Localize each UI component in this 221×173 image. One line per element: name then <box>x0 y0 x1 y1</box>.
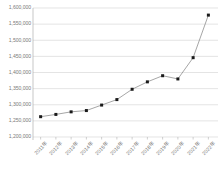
x-axis-tick-label: 2020年 <box>171 141 187 157</box>
x-axis-tick-label: 2021年 <box>186 141 202 157</box>
x-axis-tick-label: 2022年 <box>201 141 217 157</box>
x-axis-tick-label: 2012年 <box>49 141 65 157</box>
x-axis-tick-label: 2017年 <box>125 141 141 157</box>
x-axis-tick-label: 2018年 <box>140 141 156 157</box>
x-axis-tick-label: 2013年 <box>64 141 80 157</box>
x-axis-tick-label: 2014年 <box>79 141 95 157</box>
x-axis-tick-label: 2011年 <box>34 141 49 156</box>
x-axis-tick-label: 2015年 <box>95 141 111 157</box>
x-axis-tick-labels: 2011年2012年2013年2014年2015年2016年2017年2018年… <box>0 0 221 173</box>
x-axis-tick-label: 2016年 <box>110 141 126 157</box>
x-axis-tick-label: 2019年 <box>156 141 172 157</box>
line-chart: 2011年: 1,263,0002012年: 1,270,0002013年: 1… <box>0 0 221 173</box>
